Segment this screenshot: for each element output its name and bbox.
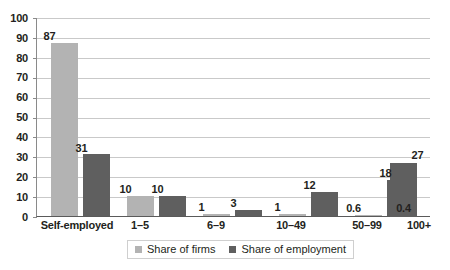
bar-value-firms-50-99: 0.6 [340,203,367,214]
y-tick-mark [33,177,37,178]
bar-firms-10-49 [279,214,306,216]
y-tick-label: 70 [4,72,28,83]
gridline [37,78,430,79]
gridline [37,58,430,59]
x-tick-label-100-plus: 100+ [386,220,450,231]
x-tick-label-1-5: 1–5 [110,220,170,231]
y-tick-mark [33,217,37,218]
y-tick-label: 0 [4,212,28,223]
y-tick-mark [33,137,37,138]
y-tick-label: 40 [4,132,28,143]
bar-value-employment-100-plus: 27 [404,150,431,161]
bar-value-employment-1-5: 10 [144,184,171,195]
bar-firms-1-5 [127,196,154,216]
bar-chart: 100 90 80 70 60 50 40 30 20 10 0 [0,0,450,270]
plot-area [36,18,430,217]
bar-value-firms-self-employed: 87 [36,31,63,42]
bar-firms-50-99 [355,215,382,216]
gridline [37,18,430,19]
legend-item-share-of-employment: Share of employment [229,244,346,255]
y-tick-label: 100 [4,13,28,24]
bar-value-firms-6-9: 1 [188,202,215,213]
bar-value-employment-10-49: 12 [296,180,323,191]
gridline [37,98,430,99]
gridline [37,38,430,39]
legend-item-share-of-firms: Share of firms [135,244,215,255]
legend-label-share-of-employment: Share of employment [241,244,346,255]
y-tick-mark [33,197,37,198]
bar-value-firms-100-plus: 0.4 [390,203,417,214]
y-tick-label: 90 [4,33,28,44]
bar-value-employment-self-employed: 31 [68,143,95,154]
bar-employment-6-9 [235,210,262,216]
legend-swatch-employment-icon [229,246,236,253]
bar-value-employment-6-9: 3 [220,198,247,209]
x-tick-label-10-49: 10–49 [258,220,324,231]
y-tick-mark [33,58,37,59]
y-tick-label: 60 [4,92,28,103]
legend-label-share-of-firms: Share of firms [147,244,215,255]
gridline [37,137,430,138]
y-tick-label: 20 [4,172,28,183]
y-tick-label: 30 [4,152,28,163]
bar-value-firms-1-5: 10 [112,184,139,195]
bar-employment-self-employed [83,154,110,216]
y-tick-label: 50 [4,112,28,123]
chart-legend: Share of firms Share of employment [127,240,354,259]
x-tick-label-6-9: 6–9 [186,220,246,231]
y-tick-mark [33,118,37,119]
y-tick-label: 80 [4,53,28,64]
y-tick-label: 10 [4,192,28,203]
y-tick-mark [33,18,37,19]
y-tick-mark [33,78,37,79]
y-tick-mark [33,157,37,158]
bar-value-employment-50-99: 18 [372,168,399,179]
bar-employment-1-5 [159,196,186,216]
bar-value-firms-10-49: 1 [264,202,291,213]
gridline [37,118,430,119]
y-tick-mark [33,98,37,99]
bar-employment-10-49 [311,192,338,216]
bar-firms-6-9 [203,214,230,216]
bar-firms-self-employed [51,43,78,216]
legend-swatch-firms-icon [135,246,142,253]
